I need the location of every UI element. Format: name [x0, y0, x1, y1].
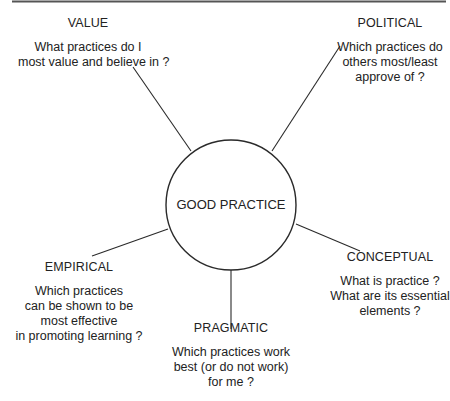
question-line: approve of ?: [330, 70, 450, 85]
node-question: Which practices work best (or do not wor…: [171, 345, 291, 390]
question-line: Which practices work: [171, 345, 291, 360]
node-question: What is practice ? What are its essentia…: [330, 274, 450, 319]
center-label: GOOD PRACTICE: [166, 197, 296, 212]
node-heading: PRAGMATIC: [171, 321, 291, 335]
question-line: Which practices: [14, 284, 144, 299]
question-line: What is practice ?: [330, 274, 450, 289]
node-heading: POLITICAL: [330, 16, 450, 30]
question-line: in promoting learning ?: [14, 329, 144, 344]
node-value: VALUE What practices do I most value and…: [18, 16, 158, 70]
node-heading: CONCEPTUAL: [330, 250, 450, 264]
connector-conceptual: [296, 224, 360, 251]
node-pragmatic: PRAGMATIC Which practices work best (or …: [171, 321, 291, 390]
question-line: can be shown to be: [14, 299, 144, 314]
question-line: most effective: [14, 314, 144, 329]
question-line: best (or do not work): [171, 360, 291, 375]
node-heading: EMPIRICAL: [14, 260, 144, 274]
node-political: POLITICAL Which practices do others most…: [330, 16, 450, 85]
node-question: What practices do I most value and belie…: [18, 40, 158, 70]
question-line: What are its essential: [330, 289, 450, 304]
question-line: What practices do I: [18, 40, 158, 55]
question-line: Which practices do: [330, 40, 450, 55]
node-question: Which practices can be shown to be most …: [14, 284, 144, 344]
node-heading: VALUE: [18, 16, 158, 30]
question-line: for me ?: [171, 375, 291, 390]
connector-value: [133, 67, 191, 151]
connector-empirical: [92, 229, 168, 256]
node-conceptual: CONCEPTUAL What is practice ? What are i…: [330, 250, 450, 319]
node-question: Which practices do others most/least app…: [330, 40, 450, 85]
node-empirical: EMPIRICAL Which practices can be shown t…: [14, 260, 144, 344]
question-line: others most/least: [330, 55, 450, 70]
question-line: most value and believe in ?: [18, 55, 158, 70]
question-line: elements ?: [330, 304, 450, 319]
